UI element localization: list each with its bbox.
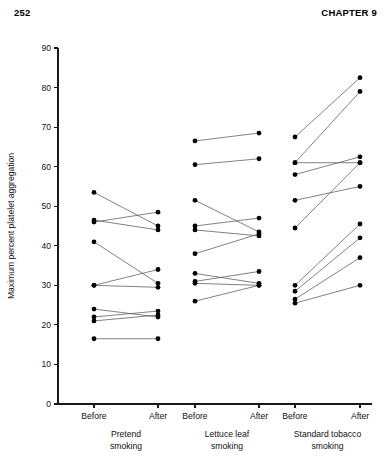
data-point-before [92, 283, 97, 288]
y-tick-label: 80 [42, 83, 52, 93]
pair-connector [195, 283, 259, 285]
y-tick-label: 10 [42, 359, 52, 369]
pair-connector [195, 230, 259, 236]
group-label: Pretend [111, 429, 141, 439]
data-point-before [193, 251, 198, 256]
pair-connector [94, 192, 158, 226]
pair-connector [295, 224, 360, 285]
data-point-before [193, 162, 198, 167]
platelet-aggregation-chart: 0102030405060708090 BeforeAfterPretendsm… [0, 0, 389, 458]
data-point-before [293, 160, 298, 165]
y-tick-label: 60 [42, 162, 52, 172]
data-point-before [193, 139, 198, 144]
x-tick-label: After [149, 411, 167, 421]
group-label: Lettuce leaf [205, 429, 250, 439]
data-point-before [293, 301, 298, 306]
data-point-before [92, 239, 97, 244]
pair-connector [195, 159, 259, 165]
data-point-after [358, 160, 363, 165]
data-point-before [92, 336, 97, 341]
chart-svg: 0102030405060708090 BeforeAfterPretendsm… [0, 0, 389, 458]
data-point-after [358, 75, 363, 80]
data-point-after [156, 285, 161, 290]
data-point-before [293, 198, 298, 203]
data-point-after [257, 269, 262, 274]
group-label: smoking [110, 441, 142, 451]
data-point-before [293, 226, 298, 231]
data-point-before [193, 228, 198, 233]
data-point-before [92, 319, 97, 324]
pair-connector [94, 285, 158, 287]
group-label: smoking [211, 441, 243, 451]
data-point-before [293, 283, 298, 288]
pair-connector [295, 92, 360, 163]
y-tick-label: 40 [42, 241, 52, 251]
data-point-after [358, 89, 363, 94]
data-point-after [156, 210, 161, 215]
pair-connector [195, 271, 259, 281]
y-tick-label: 50 [42, 201, 52, 211]
y-tick-label: 20 [42, 320, 52, 330]
data-point-after [156, 313, 161, 318]
pair-connector [195, 234, 259, 254]
pair-connector [94, 220, 158, 230]
pair-connector [295, 163, 360, 228]
pair-connector [295, 258, 360, 300]
data-point-before [92, 220, 97, 225]
data-point-after [257, 156, 262, 161]
pair-connector [295, 186, 360, 200]
data-point-after [257, 232, 262, 237]
data-point-after [156, 228, 161, 233]
data-point-before [293, 135, 298, 140]
x-tick-label: Before [282, 411, 308, 421]
data-point-after [358, 235, 363, 240]
y-tick-label: 90 [42, 43, 52, 53]
y-tick-label: 0 [46, 399, 51, 409]
data-point-after [257, 216, 262, 221]
pair-connector [295, 78, 360, 137]
group-label: smoking [312, 441, 344, 451]
pair-connector [195, 218, 259, 226]
data-point-before [92, 307, 97, 312]
data-point-before [293, 289, 298, 294]
data-point-after [358, 154, 363, 159]
chart-axes: 0102030405060708090 [42, 43, 372, 409]
data-point-after [358, 184, 363, 189]
chart-labels: BeforeAfterPretendsmokingBeforeAfterLett… [6, 153, 369, 451]
x-tick-label: After [351, 411, 369, 421]
x-tick-label: Before [81, 411, 107, 421]
x-tick-label: Before [182, 411, 208, 421]
data-point-after [358, 255, 363, 260]
pair-connector [195, 273, 259, 283]
pair-connector [195, 133, 259, 141]
data-point-before [293, 172, 298, 177]
pair-connector [195, 200, 259, 232]
x-tick-label: After [250, 411, 268, 421]
data-point-before [193, 271, 198, 276]
pair-connector [295, 157, 360, 175]
data-point-before [193, 198, 198, 203]
pair-connector [195, 285, 259, 301]
group-label: Standard tobacco [294, 429, 362, 439]
data-point-before [193, 299, 198, 304]
data-point-before [92, 190, 97, 195]
axis-lines [58, 48, 372, 404]
data-point-after [257, 131, 262, 136]
pair-connector [295, 285, 360, 303]
chart-series [92, 75, 363, 341]
y-tick-label: 30 [42, 280, 52, 290]
data-point-after [358, 222, 363, 227]
y-axis-title: Maximum percent platelet aggregation [6, 153, 16, 299]
data-point-after [156, 336, 161, 341]
pair-connector [295, 238, 360, 291]
data-point-after [358, 283, 363, 288]
y-tick-label: 70 [42, 122, 52, 132]
data-point-after [257, 283, 262, 288]
data-point-after [156, 267, 161, 272]
figure-page: 252 CHAPTER 9 0102030405060708090 Before… [0, 0, 389, 458]
data-point-before [193, 281, 198, 286]
